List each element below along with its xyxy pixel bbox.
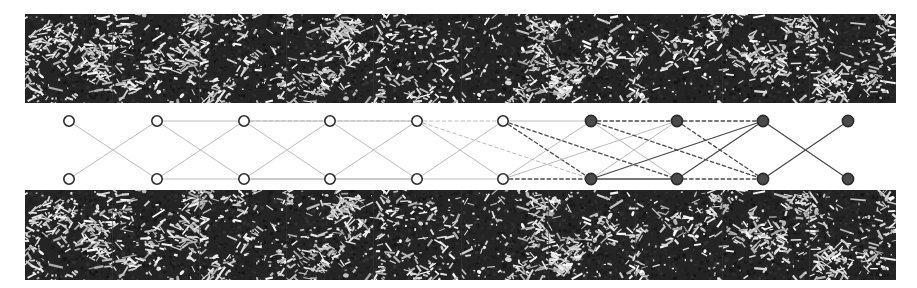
graph-node-open bbox=[325, 116, 335, 126]
graph-edge bbox=[591, 121, 763, 179]
graph-edge bbox=[677, 121, 763, 179]
graph-edge bbox=[330, 121, 417, 179]
bottom-texture-strip bbox=[25, 190, 896, 280]
graph-node-open bbox=[325, 174, 335, 184]
graph-node-open bbox=[64, 116, 74, 126]
graph-edge bbox=[157, 121, 244, 179]
top-texture-strip bbox=[25, 14, 896, 103]
graph-node-open bbox=[498, 174, 508, 184]
nodes-group bbox=[64, 115, 854, 184]
graph-node-open bbox=[64, 174, 74, 184]
graph-node-filled bbox=[842, 115, 853, 126]
graph-node-filled bbox=[671, 115, 682, 126]
graph-edge bbox=[503, 121, 591, 179]
graph-node-filled bbox=[757, 115, 768, 126]
graph-edge bbox=[417, 121, 503, 179]
graph-edge bbox=[677, 121, 763, 179]
edges-group bbox=[69, 121, 848, 179]
graph-node-filled bbox=[757, 173, 768, 184]
graph-node-open bbox=[152, 116, 162, 126]
graph-node-filled bbox=[585, 115, 596, 126]
graph-edge bbox=[244, 121, 330, 179]
graph-edge bbox=[69, 121, 157, 179]
graph-node-open bbox=[412, 116, 422, 126]
graph-node-filled bbox=[671, 173, 682, 184]
graph-node-open bbox=[412, 174, 422, 184]
graph-edge bbox=[244, 121, 330, 179]
graph-edge bbox=[763, 121, 848, 179]
graph-node-filled bbox=[585, 173, 596, 184]
figure-root bbox=[0, 0, 917, 288]
graph-node-filled bbox=[842, 173, 853, 184]
graph-edge bbox=[69, 121, 157, 179]
graph-edge bbox=[417, 121, 503, 179]
graph-edge bbox=[330, 121, 417, 179]
graph-edge bbox=[591, 121, 677, 179]
graph-node-open bbox=[498, 116, 508, 126]
graph-node-open bbox=[239, 116, 249, 126]
graph-edge bbox=[591, 121, 763, 179]
graph-edge bbox=[503, 121, 677, 179]
graph-edge bbox=[591, 121, 677, 179]
graph-edge bbox=[503, 121, 677, 179]
graph-edge bbox=[417, 121, 591, 179]
graph-edge bbox=[157, 121, 244, 179]
top-texture-canvas bbox=[25, 14, 896, 103]
graph-node-open bbox=[239, 174, 249, 184]
graph-node-open bbox=[152, 174, 162, 184]
bottom-texture-canvas bbox=[25, 190, 896, 280]
graph-edge bbox=[763, 121, 848, 179]
graph-edge bbox=[503, 121, 591, 179]
